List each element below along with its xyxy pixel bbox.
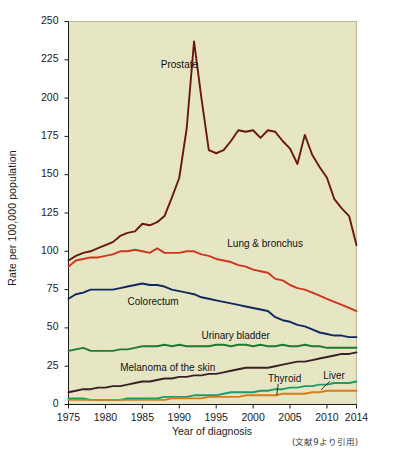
y-axis-tick-label: 50: [23, 320, 59, 332]
series-label-thyroid: Thyroid: [268, 373, 301, 384]
x-axis-tick-label: 1985: [122, 411, 162, 423]
x-axis-tick-label: 2005: [270, 411, 310, 423]
x-axis-tick-label: 2000: [233, 411, 273, 423]
y-axis-tick-label: 150: [23, 167, 59, 179]
y-axis-tick-label: 175: [23, 129, 59, 141]
series-label-colorectum: Colorectum: [128, 296, 179, 307]
series-label-lung-bronchus: Lung & bronchus: [227, 238, 303, 249]
y-axis-tick-label: 25: [23, 359, 59, 371]
y-axis-tick-label: 100: [23, 244, 59, 256]
x-axis-tick-label: 1975: [49, 411, 89, 423]
y-axis-tick-label: 125: [23, 206, 59, 218]
y-axis-tick-label: 200: [23, 91, 59, 103]
series-label-melanoma-of-the-skin: Melanoma of the skin: [120, 362, 215, 373]
y-axis-title: Rate per 100,000 population: [6, 128, 18, 308]
x-axis-tick-label: 1990: [159, 411, 199, 423]
x-axis-tick-label: 1980: [85, 411, 125, 423]
y-axis-tick-label: 0: [23, 397, 59, 409]
x-axis-tick-label: 2014: [337, 411, 377, 423]
figure-citation: (文献9より引用): [292, 435, 358, 447]
series-label-prostate: Prostate: [161, 59, 198, 70]
x-axis-tick-label: 1995: [196, 411, 236, 423]
cancer-incidence-line-chart: Rate per 100,000 population Year of diag…: [0, 0, 394, 456]
y-axis-tick-label: 75: [23, 282, 59, 294]
series-label-urinary-bladder: Urinary bladder: [201, 330, 269, 341]
y-axis-tick-label: 250: [23, 14, 59, 26]
series-label-liver: Liver: [323, 370, 345, 381]
y-axis-tick-label: 225: [23, 52, 59, 64]
